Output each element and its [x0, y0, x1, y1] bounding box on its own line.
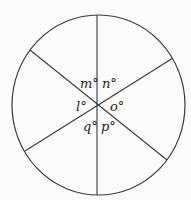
angle-label-p: p° — [101, 119, 116, 134]
angle-label-m: m° — [80, 76, 99, 91]
angle-label-n: n° — [102, 76, 117, 91]
diagonal-diameter-ascending — [25, 58, 173, 151]
angle-label-q: q° — [83, 119, 98, 134]
angle-label-o: o° — [110, 99, 124, 114]
angle-label-l: l° — [76, 99, 87, 114]
circle-diagram: m° n° l° o° q° p° — [0, 0, 191, 200]
diagram-canvas: m° n° l° o° q° p° — [0, 0, 191, 200]
